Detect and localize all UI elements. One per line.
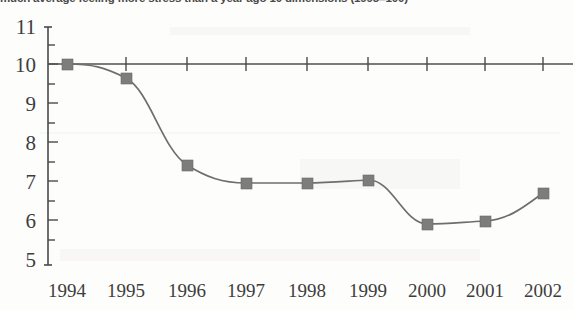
x-tick-label: 1994	[48, 280, 87, 301]
x-tick-label: 2002	[524, 280, 562, 301]
y-tick-label: 6	[26, 209, 37, 233]
data-point-1998	[302, 178, 313, 189]
x-tick-label: 2000	[408, 280, 446, 301]
data-point-1997	[241, 178, 252, 189]
y-tick-labels: 11 10 9 8 7 6 5	[15, 15, 36, 272]
y-axis	[44, 27, 52, 265]
y-tick-label: 11	[16, 15, 36, 39]
data-point-1995	[121, 73, 132, 84]
y-major-ticks	[48, 64, 58, 220]
figure-caption-clipped: much average feeling more stress than a …	[0, 0, 573, 9]
chart-svg: 11 10 9 8 7 6 5	[0, 9, 573, 310]
chart-page: much average feeling more stress than a …	[0, 0, 573, 310]
y-tick-label: 9	[26, 92, 37, 116]
x-tick-label: 1999	[349, 280, 387, 301]
x-tick-label: 1995	[107, 280, 145, 301]
reference-line-at-10	[48, 57, 573, 71]
x-tick-label: 2001	[466, 280, 504, 301]
x-tick-label: 1998	[288, 280, 326, 301]
data-point-1996	[182, 160, 193, 171]
line-chart: 11 10 9 8 7 6 5	[0, 9, 573, 310]
y-tick-label: 5	[26, 248, 37, 272]
y-tick-label: 10	[15, 53, 36, 77]
x-tick-labels: 1994 1995 1996 1997 1998 1999 2000 2001 …	[48, 280, 562, 301]
figure-caption-text: much average feeling more stress than a …	[0, 0, 408, 4]
y-tick-label: 7	[26, 170, 37, 194]
y-tick-label: 8	[26, 131, 37, 155]
data-point-1999	[363, 175, 374, 186]
data-series-line	[67, 64, 543, 224]
x-tick-label: 1996	[168, 280, 206, 301]
x-tick-label: 1997	[227, 280, 265, 301]
data-point-2002	[538, 188, 549, 199]
data-point-2000	[422, 219, 433, 230]
data-point-1994	[62, 59, 73, 70]
data-point-2001	[480, 216, 491, 227]
